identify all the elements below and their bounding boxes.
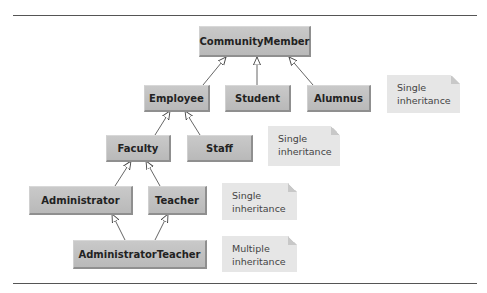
note-line: Single — [278, 132, 340, 145]
note-line: Single — [232, 189, 297, 202]
note-multiple-inheritance: Multiple inheritance — [222, 236, 297, 272]
class-administrator: Administrator — [29, 186, 133, 215]
note-line: inheritance — [397, 94, 460, 107]
edge-staff-employee — [185, 111, 200, 135]
note-line: inheritance — [232, 255, 297, 268]
note-line: Single — [397, 81, 460, 94]
class-teacher: Teacher — [148, 186, 207, 215]
edge-adminteacher-teacher — [155, 214, 168, 240]
class-administrator-teacher: AdministratorTeacher — [73, 240, 207, 269]
class-faculty: Faculty — [106, 135, 171, 162]
note-single-inheritance-2: Single inheritance — [268, 126, 340, 166]
note-single-inheritance-3: Single inheritance — [222, 183, 297, 220]
note-line: inheritance — [278, 145, 340, 158]
note-line: Multiple — [232, 242, 297, 255]
class-employee: Employee — [144, 85, 210, 112]
edge-alumnus-communitymember — [289, 57, 313, 85]
note-line: inheritance — [232, 202, 297, 215]
class-staff: Staff — [187, 135, 253, 162]
class-alumnus: Alumnus — [307, 85, 371, 112]
note-single-inheritance-1: Single inheritance — [387, 75, 460, 113]
edge-adminteacher-administrator — [112, 214, 125, 240]
edge-administrator-faculty — [115, 161, 131, 186]
edge-employee-communitymember — [203, 57, 226, 85]
class-student: Student — [225, 85, 291, 112]
edge-teacher-faculty — [146, 161, 160, 186]
class-community-member: CommunityMember — [199, 26, 311, 57]
edge-faculty-employee — [155, 111, 170, 135]
